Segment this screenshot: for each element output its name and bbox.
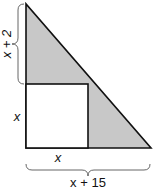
label-x-plus-15: x + 15 bbox=[70, 175, 106, 190]
label-square-height: x bbox=[13, 109, 21, 124]
geometry-diagram: x + 2 x x x + 15 bbox=[0, 0, 161, 195]
label-x-plus-2: x + 2 bbox=[0, 29, 14, 59]
label-square-width: x bbox=[54, 150, 62, 165]
inscribed-square bbox=[26, 84, 88, 148]
